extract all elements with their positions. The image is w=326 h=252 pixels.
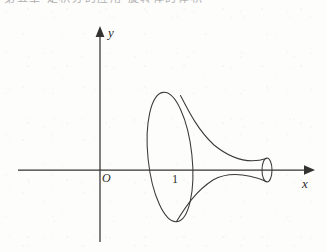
lower-profile-curve — [177, 174, 267, 221]
x-tick-label-1: 1 — [172, 173, 178, 185]
upper-profile-curve — [181, 96, 267, 161]
x-axis-label: x — [302, 177, 308, 190]
gabriels-horn-diagram — [0, 0, 326, 252]
y-axis-label: y — [108, 26, 114, 39]
x-axis-right-arrowhead-icon — [304, 165, 315, 175]
mouth-cross-section-ellipse — [141, 90, 198, 224]
origin-label: O — [102, 172, 111, 184]
figure-canvas: 第五章 定积分的应用 旋转体的体积 y x O 1 — [0, 0, 326, 252]
y-axis-up-arrowhead-icon — [96, 26, 105, 37]
